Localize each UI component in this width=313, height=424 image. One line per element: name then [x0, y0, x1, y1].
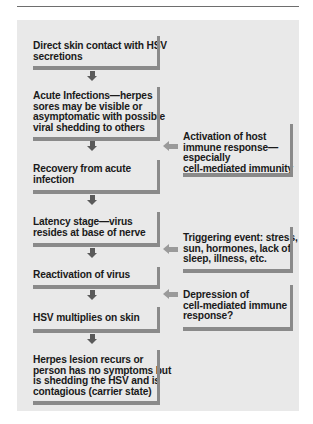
box-shadow-bottom — [33, 66, 160, 70]
box-shadow-right — [290, 285, 293, 331]
box-shadow-bottom — [33, 243, 160, 247]
step-label: Herpes lesion recurs or person has no sy… — [33, 355, 171, 397]
box-shadow-bottom — [33, 285, 160, 289]
step-label: Direct skin contact with HSV secretions — [33, 41, 167, 62]
top-rule-divider — [17, 6, 299, 7]
factor-label: Activation of host immune response— espe… — [183, 132, 293, 174]
step-label: HSV multiplies on skin — [33, 313, 140, 324]
factor-label: Triggering event: stress, sun, hormones,… — [183, 233, 298, 265]
box-shadow-bottom — [183, 327, 293, 331]
box-shadow-bottom — [33, 401, 160, 405]
box-shadow-bottom — [33, 137, 160, 141]
factor-label: Depression of cell-mediated immune respo… — [183, 290, 287, 322]
box-shadow-bottom — [33, 190, 160, 194]
box-shadow-right — [157, 160, 160, 194]
box-shadow-bottom — [183, 173, 293, 177]
step-label: Reactivation of virus — [33, 270, 130, 281]
box-shadow-bottom — [183, 269, 293, 273]
box-shadow-right — [157, 212, 160, 247]
step-label: Latency stage—virus resides at base of n… — [33, 217, 145, 238]
box-shadow-right — [290, 227, 293, 273]
step-label: Recovery from acute infection — [33, 164, 131, 185]
box-shadow-right — [290, 124, 293, 177]
box-shadow-right — [157, 36, 160, 69]
box-shadow-right — [157, 350, 160, 405]
step-label: Acute Infections—herpes sores may be vis… — [33, 91, 165, 133]
box-shadow-right — [157, 87, 160, 141]
box-shadow-bottom — [33, 329, 160, 333]
